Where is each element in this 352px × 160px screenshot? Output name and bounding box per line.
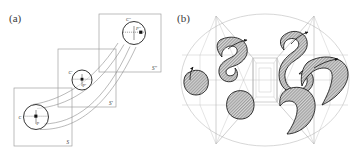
point-P1-marker (81, 78, 84, 81)
frame-label-S1: S' (109, 100, 114, 106)
panel-a-tag: (a) (9, 12, 22, 25)
panel-a-canvas: (a) S S' S'' C P (0, 0, 352, 160)
label-P: P (36, 121, 40, 126)
label-C2: C'' (126, 17, 131, 22)
label-C1: C' (69, 70, 73, 75)
panel-b-tag: (b) (177, 12, 190, 25)
circle-group-S: C P (19, 105, 49, 130)
round-blob-left (184, 67, 209, 95)
label-C: C (19, 115, 22, 120)
round-blob-lower-left (227, 91, 255, 119)
circle-group-S1: C' P' (69, 70, 93, 91)
frame-label-S2: S'' (152, 65, 158, 71)
hook-blob-lower-center (280, 87, 315, 134)
point-P2-marker (139, 31, 142, 34)
label-P1: P' (82, 83, 87, 88)
circle-group-S2: C'' P'' (123, 17, 146, 45)
hook-blob-upper-left (217, 37, 247, 82)
figure-root: (a) S S' S'' C P (0, 0, 352, 160)
blob-group (184, 31, 348, 134)
frame-label-S: S (67, 139, 70, 145)
point-P-marker (34, 115, 37, 118)
label-P2: P'' (135, 26, 140, 31)
